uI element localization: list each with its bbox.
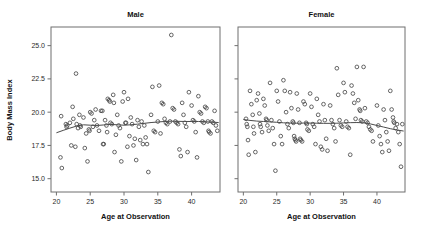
y-tick-label-4: 25.0 [31,42,45,49]
x-tick-label-male-0: 20 [53,198,61,205]
y-tick-label-3: 22.5 [31,75,45,82]
scatter-plot-figure: Male15.017.520.022.525.02025303540Age at… [0,0,422,241]
y-tick-label-2: 20.0 [31,109,45,116]
x-tick-label-male-4: 40 [188,198,196,205]
y-axis-title: Body Mass Index [5,79,14,141]
x-tick-label-male-2: 30 [120,198,128,205]
plot-canvas: Male15.017.520.022.525.02025303540Age at… [0,0,422,241]
x-axis-title-male: Age at Observation [101,212,170,221]
panel-title-male: Male [127,10,144,19]
x-tick-label-female-0: 20 [239,198,247,205]
x-tick-label-female-1: 25 [273,198,281,205]
x-tick-label-male-3: 35 [154,198,162,205]
x-tick-label-male-1: 25 [86,198,94,205]
x-tick-label-female-3: 35 [340,198,348,205]
panel-title-female: Female [309,10,335,19]
x-tick-label-female-2: 30 [306,198,314,205]
y-tick-label-1: 17.5 [31,142,45,149]
y-tick-label-0: 15.0 [31,175,45,182]
x-axis-title-female: Age at Observation [287,212,356,221]
x-tick-label-female-4: 40 [373,198,381,205]
